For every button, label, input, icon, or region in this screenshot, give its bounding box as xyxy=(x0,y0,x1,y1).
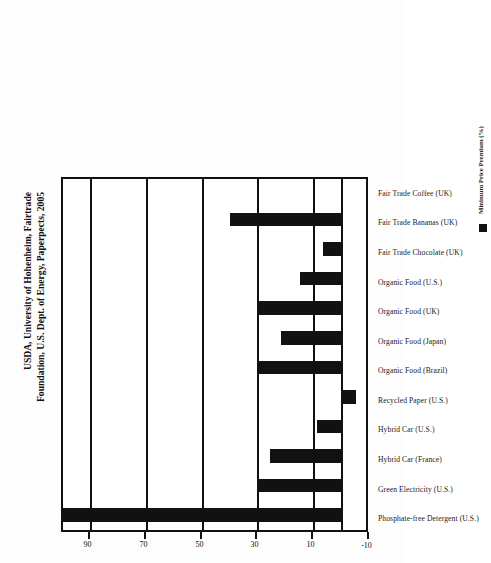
y-tick-10 xyxy=(311,532,313,539)
y-tick--10 xyxy=(367,532,369,539)
bar[interactable] xyxy=(258,301,342,315)
bar[interactable] xyxy=(258,360,342,374)
category-label: Organic Food (Japan) xyxy=(378,336,446,345)
category-axis-labels: Phosphate-free Detergent (U.S.)Green Ele… xyxy=(374,177,491,532)
bar-slot xyxy=(63,352,366,382)
bar-slot xyxy=(63,293,366,323)
y-tick-90 xyxy=(87,532,89,539)
bar-slot xyxy=(63,382,366,412)
y-tick-label-70: 70 xyxy=(138,540,147,563)
bar[interactable] xyxy=(269,449,342,463)
series-color-swatch xyxy=(479,224,487,232)
y-tick-50 xyxy=(199,532,201,539)
gridline-90 xyxy=(89,179,91,530)
category-label: Fair Trade Coffee (UK) xyxy=(378,188,452,197)
category-label: Organic Food (Brazil) xyxy=(378,366,447,375)
category-label: Recycled Paper (U.S.) xyxy=(378,395,448,404)
bar-slot xyxy=(63,263,366,293)
legend-label: Minimum Price Premium (%) xyxy=(477,126,484,214)
bar-slot xyxy=(63,234,366,264)
source-credit: USDA, University of Hohenheim, Fairtrade… xyxy=(22,192,47,532)
category-label: Organic Food (UK) xyxy=(378,307,439,316)
bar-slot xyxy=(63,175,366,205)
source-line-2: Foundation, U.S. Dept. of Energy, Paperp… xyxy=(34,192,47,532)
category-label: Fair Trade Bananas (UK) xyxy=(378,218,457,227)
category-label: Green Electricity (U.S.) xyxy=(378,484,453,493)
plot-area: -101030507090 xyxy=(61,177,368,532)
bar[interactable] xyxy=(300,271,342,285)
gridline-30 xyxy=(257,179,259,530)
y-tick-label-10: 10 xyxy=(306,540,315,563)
bar-slot xyxy=(63,500,366,530)
plot-frame xyxy=(61,177,368,532)
y-tick-70 xyxy=(143,532,145,539)
gridline-10 xyxy=(313,179,315,530)
bar-slot xyxy=(63,441,366,471)
bar[interactable] xyxy=(322,242,342,256)
category-label: Fair Trade Chocolate (UK) xyxy=(378,247,463,256)
y-tick-label-90: 90 xyxy=(82,540,91,563)
bar[interactable] xyxy=(280,330,341,344)
tick-text: 10 xyxy=(306,539,314,548)
gridline-70 xyxy=(145,179,147,530)
bar-slot xyxy=(63,204,366,234)
bars-layer xyxy=(63,179,366,530)
tick-text: -10 xyxy=(361,540,372,549)
tick-text: 70 xyxy=(139,539,147,548)
y-tick-30 xyxy=(255,532,257,539)
bar[interactable] xyxy=(342,390,356,404)
category-label: Hybrid Car (France) xyxy=(378,455,442,464)
chart-stage: USDA, University of Hohenheim, Fairtrade… xyxy=(22,32,382,532)
bar-slot xyxy=(63,322,366,352)
source-line-1: USDA, University of Hohenheim, Fairtrade xyxy=(22,192,35,532)
category-label: Hybrid Car (U.S.) xyxy=(378,425,435,434)
y-tick-label--10: -10 xyxy=(362,540,371,563)
bar-slot xyxy=(63,470,366,500)
y-tick-label-50: 50 xyxy=(194,540,203,563)
tick-text: 30 xyxy=(250,539,258,548)
bar[interactable] xyxy=(230,212,342,226)
chart-legend: Minimum Price Premium (%) xyxy=(477,177,491,532)
gridline-50 xyxy=(201,179,203,530)
zero-line xyxy=(341,179,343,530)
bar[interactable] xyxy=(258,478,342,492)
category-label: Organic Food (U.S.) xyxy=(378,277,442,286)
tick-text: 90 xyxy=(83,539,91,548)
bar[interactable] xyxy=(316,419,341,433)
category-label: Phosphate-free Detergent (U.S.) xyxy=(378,514,479,523)
y-tick-label-30: 30 xyxy=(250,540,259,563)
bar-slot xyxy=(63,411,366,441)
tick-text: 50 xyxy=(195,539,203,548)
